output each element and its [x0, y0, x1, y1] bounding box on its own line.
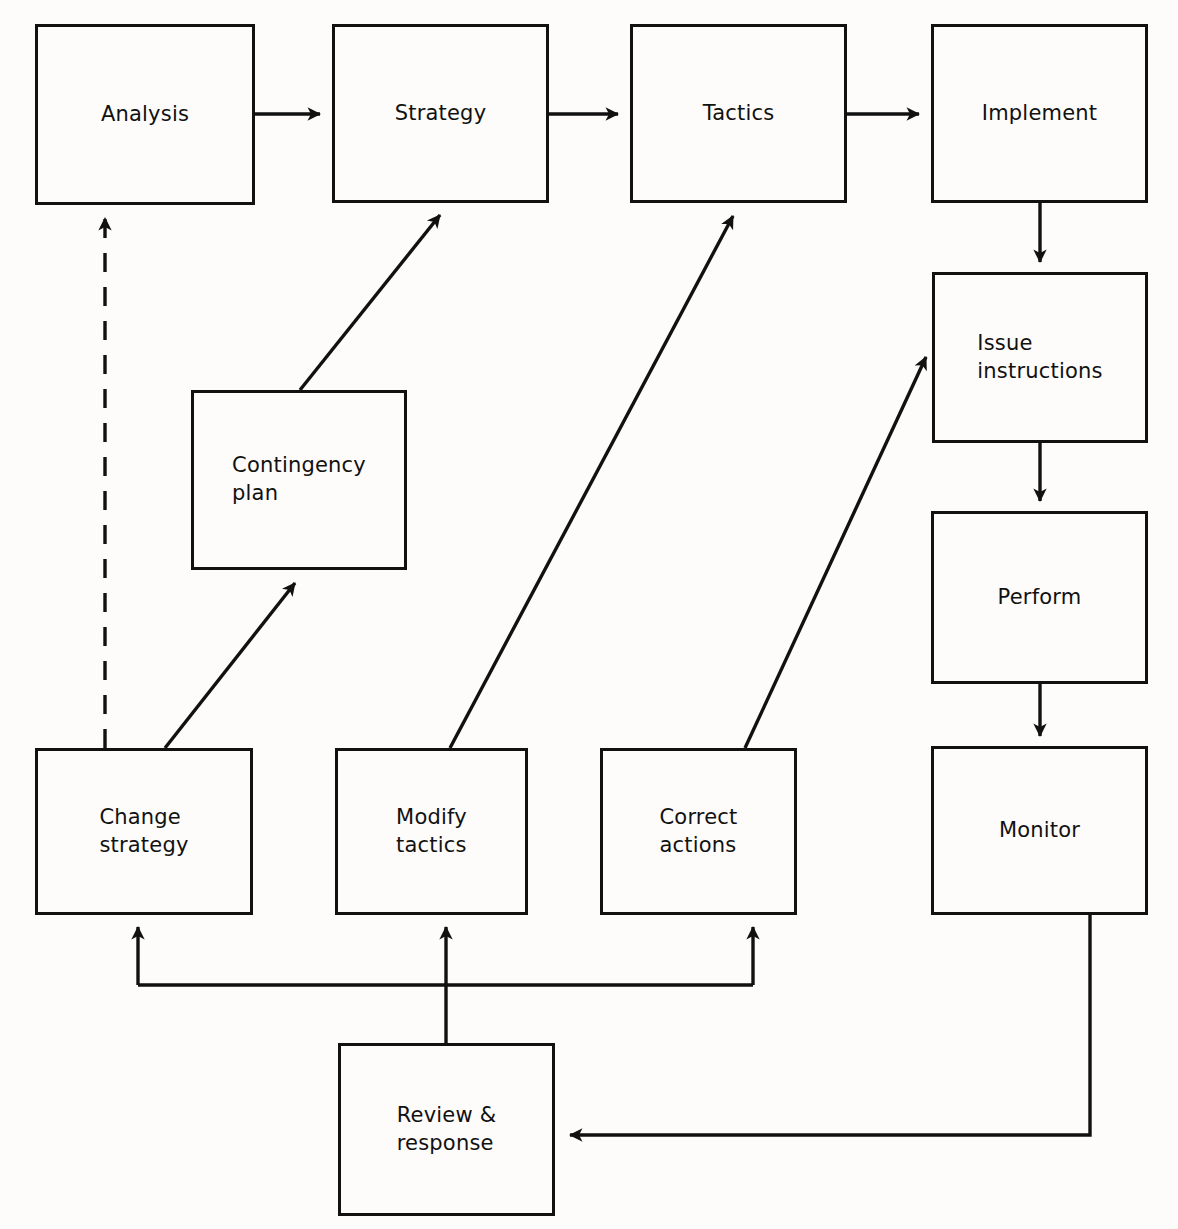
- edge-correct-to-issue: [745, 357, 926, 748]
- node-analysis-label: Analysis: [101, 101, 189, 129]
- node-change-strategy-label: Change strategy: [99, 804, 188, 859]
- node-monitor-label: Monitor: [999, 817, 1080, 845]
- node-analysis[interactable]: Analysis: [35, 24, 255, 205]
- node-contingency-plan[interactable]: Contingency plan: [191, 390, 407, 570]
- edge-monitor-to-review: [570, 915, 1090, 1135]
- edge-modify-to-tactics: [450, 216, 733, 748]
- node-review-response[interactable]: Review & response: [338, 1043, 555, 1216]
- node-monitor[interactable]: Monitor: [931, 746, 1148, 915]
- node-tactics[interactable]: Tactics: [630, 24, 847, 203]
- node-strategy[interactable]: Strategy: [332, 24, 549, 203]
- node-implement[interactable]: Implement: [931, 24, 1148, 203]
- node-issue-instructions[interactable]: Issue instructions: [932, 272, 1148, 443]
- node-modify-tactics[interactable]: Modify tactics: [335, 748, 528, 915]
- node-correct-actions-label: Correct actions: [659, 804, 737, 859]
- flowchart-diagram: Analysis Strategy Tactics Implement Issu…: [0, 0, 1178, 1229]
- node-change-strategy[interactable]: Change strategy: [35, 748, 253, 915]
- node-correct-actions[interactable]: Correct actions: [600, 748, 797, 915]
- node-tactics-label: Tactics: [703, 100, 775, 128]
- node-modify-tactics-label: Modify tactics: [396, 804, 467, 859]
- node-implement-label: Implement: [982, 100, 1097, 128]
- node-issue-instructions-label: Issue instructions: [977, 330, 1102, 385]
- edge-change-to-contingency: [165, 583, 295, 748]
- node-strategy-label: Strategy: [395, 100, 487, 128]
- node-perform[interactable]: Perform: [931, 511, 1148, 684]
- node-perform-label: Perform: [998, 584, 1082, 612]
- node-contingency-plan-label: Contingency plan: [232, 452, 366, 507]
- node-review-response-label: Review & response: [397, 1102, 497, 1157]
- edge-contingency-to-strategy: [300, 215, 440, 390]
